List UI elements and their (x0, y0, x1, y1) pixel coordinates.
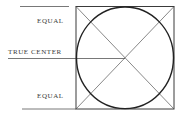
true-center-diagram: EQUAL TRUE CENTER EQUAL (0, 0, 180, 116)
equal-bottom-label: EQUAL (37, 93, 64, 100)
equal-top-label: EQUAL (37, 18, 64, 25)
true-center-label: TRUE CENTER (8, 49, 62, 56)
diagram-canvas (0, 0, 180, 116)
